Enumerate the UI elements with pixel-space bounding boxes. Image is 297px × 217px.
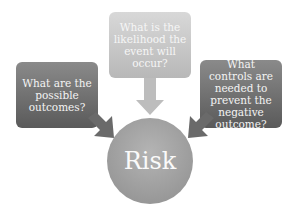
node-likelihood: What is the likelihood the event will oc… [109, 12, 191, 78]
node-controls-label: What controls are needed to prevent the … [204, 58, 278, 130]
arrow-right-to-center-icon [184, 112, 214, 140]
node-outcomes: What are the possible outcomes? [16, 62, 98, 128]
arrow-down-icon [135, 78, 165, 116]
node-likelihood-label: What is the likelihood the event will oc… [113, 21, 187, 69]
center-risk-label: Risk [124, 147, 177, 175]
node-outcomes-label: What are the possible outcomes? [20, 77, 94, 113]
center-risk: Risk [107, 118, 193, 204]
